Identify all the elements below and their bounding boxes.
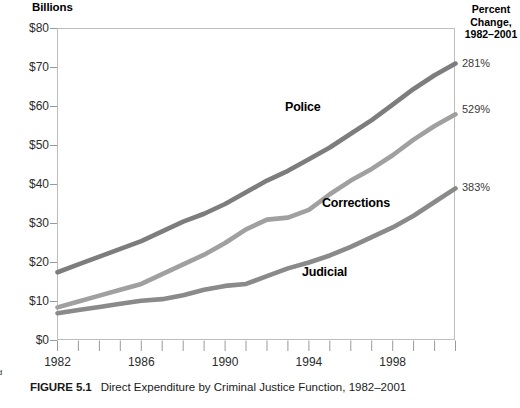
margin-scrap-bottom: ed	[0, 369, 2, 376]
figure-caption: FIGURE 5.1Direct Expenditure by Criminal…	[30, 381, 406, 393]
x-tick-label-1994: 1994	[285, 355, 333, 369]
percent-change-header-line3: 1982–2001	[462, 28, 520, 41]
percent-change-judicial: 383%	[462, 181, 490, 193]
series-label-police: Police	[285, 100, 321, 114]
percent-change-police: 281%	[462, 57, 490, 69]
percent-change-header-line2: Change,	[462, 16, 520, 29]
figure-container: Billions $80 $70 $60 $50 $40 $30 $20 $10…	[0, 0, 520, 408]
chart-plot-area	[0, 0, 520, 408]
percent-change-corrections: 529%	[462, 103, 490, 115]
x-tick-label-1982: 1982	[34, 355, 82, 369]
x-tick-label-1998: 1998	[369, 355, 417, 369]
percent-change-header: Percent Change, 1982–2001	[462, 3, 520, 41]
x-tick-marks	[58, 341, 456, 352]
figure-number: FIGURE 5.1	[30, 381, 92, 393]
x-tick-label-1990: 1990	[201, 355, 249, 369]
x-tick-label-1986: 1986	[117, 355, 165, 369]
series-label-corrections: Corrections	[322, 196, 390, 210]
figure-caption-text: Direct Expenditure by Criminal Justice F…	[101, 381, 407, 393]
percent-change-header-line1: Percent	[462, 3, 520, 16]
series-label-judicial: Judicial	[302, 265, 347, 279]
y-tick-marks	[50, 29, 57, 341]
